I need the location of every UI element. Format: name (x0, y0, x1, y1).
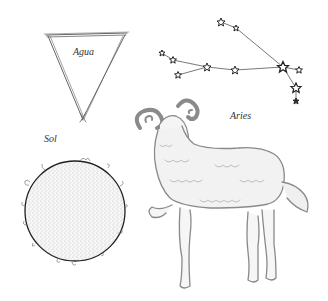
star-icon (233, 25, 239, 31)
star-icon (170, 57, 177, 64)
star-icon (217, 18, 225, 26)
ram-illustration (137, 100, 308, 288)
aries-constellation-lines (162, 22, 299, 101)
star-icon (231, 66, 239, 74)
star-icon (291, 83, 301, 93)
star-icon (175, 72, 182, 79)
star-icon (278, 62, 289, 73)
sun-icon (22, 158, 127, 265)
star-icon (159, 50, 165, 56)
sol-label: Sol (44, 133, 57, 144)
star-icon (296, 67, 303, 74)
agua-label: Agua (73, 46, 94, 57)
illustration-canvas: Agua Aries Sol (0, 0, 328, 301)
aries-label: Aries (230, 110, 251, 121)
star-icon (203, 63, 211, 71)
aries-constellation-stars (159, 18, 303, 104)
illustration-svg (0, 0, 328, 301)
star-icon (293, 98, 299, 104)
